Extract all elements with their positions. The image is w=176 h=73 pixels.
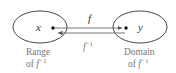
forward-arrow-label: f [88,12,93,24]
range-caption-line2: of f−1 [26,57,47,69]
domain-caption-line2: of f−1 [128,57,149,69]
point-y-dot [124,26,127,29]
element-x: x [35,21,41,33]
function-inverse-diagram: x y f f−1 Range of f−1 Domain of f−1 [0,0,176,73]
inverse-arrow-label: f−1 [83,40,94,52]
domain-caption-line1: Domain [124,47,155,57]
range-caption-line1: Range [26,47,50,57]
element-y: y [137,21,143,33]
